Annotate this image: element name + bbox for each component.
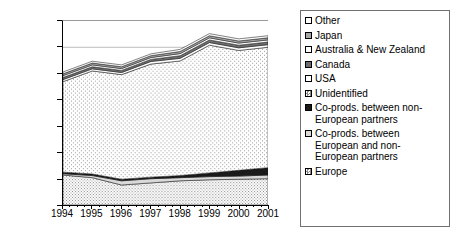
legend-swatch-5 (305, 90, 312, 97)
x-axis-minor-tick (143, 205, 144, 207)
legend: OtherJapanAustralia & New ZealandCanadaU… (300, 10, 450, 227)
x-axis-label: 1996 (110, 208, 132, 219)
x-axis-minor-tick (253, 205, 254, 207)
legend-item[interactable]: Japan (305, 30, 446, 42)
legend-label: Other (315, 15, 340, 27)
x-axis-minor-tick (194, 205, 195, 207)
legend-swatch-2 (305, 46, 312, 53)
x-axis-minor-tick (158, 205, 159, 207)
x-axis-minor-tick (84, 205, 85, 207)
legend-label: Europe (315, 166, 347, 178)
x-axis-minor-tick (165, 205, 166, 207)
x-axis-label: 1995 (80, 208, 102, 219)
x-axis-minor-tick (99, 205, 100, 207)
legend-swatch-4 (305, 75, 312, 82)
legend-label: Japan (315, 30, 342, 42)
legend-label: Australia & New Zealand (315, 44, 425, 56)
legend-label: USA (315, 73, 336, 85)
plot-svg (63, 21, 268, 205)
legend-label: Co-prods. between non- European partners (315, 102, 422, 125)
legend-item[interactable]: Other (305, 15, 446, 27)
legend-swatch-0 (305, 17, 312, 24)
x-axis-minor-tick (246, 205, 247, 207)
x-axis-label: 1997 (139, 208, 161, 219)
legend-swatch-1 (305, 32, 312, 39)
series-areas (63, 34, 268, 205)
legend-label: Canada (315, 59, 350, 71)
x-axis-minor-tick (136, 205, 137, 207)
legend-item[interactable]: Co-prods. between European and non- Euro… (305, 128, 446, 163)
legend-swatch-3 (305, 61, 312, 68)
legend-label: Co-prods. between European and non- Euro… (315, 128, 401, 163)
x-axis-minor-tick (202, 205, 203, 207)
x-axis-minor-tick (128, 205, 129, 207)
x-axis-minor-tick (224, 205, 225, 207)
legend-label: Unidentified (315, 88, 368, 100)
x-axis-minor-tick (77, 205, 78, 207)
plot-area (62, 20, 268, 205)
legend-item[interactable]: Co-prods. between non- European partners (305, 102, 446, 125)
x-axis-minor-tick (217, 205, 218, 207)
legend-item[interactable]: Australia & New Zealand (305, 44, 446, 56)
legend-item[interactable]: USA (305, 73, 446, 85)
chart-screenshot: 050 000100 000150 000200 000250 000300 0… (0, 0, 458, 237)
x-axis-minor-tick (231, 205, 232, 207)
x-axis-minor-tick (69, 205, 70, 207)
legend-item[interactable]: Europe (305, 166, 446, 178)
x-axis-label: 1999 (198, 208, 220, 219)
x-axis-label: 2000 (227, 208, 249, 219)
x-axis-label: 1994 (51, 208, 73, 219)
legend-item[interactable]: Unidentified (305, 88, 446, 100)
x-axis-minor-tick (261, 205, 262, 207)
x-axis-minor-tick (114, 205, 115, 207)
x-axis-label: 2001 (257, 208, 279, 219)
legend-swatch-6 (305, 104, 312, 111)
x-axis-minor-tick (187, 205, 188, 207)
stacked-area-chart: 050 000100 000150 000200 000250 000300 0… (0, 0, 290, 237)
legend-swatch-8 (305, 168, 312, 175)
x-axis-minor-tick (106, 205, 107, 207)
x-axis-minor-tick (172, 205, 173, 207)
legend-item[interactable]: Canada (305, 59, 446, 71)
x-axis-label: 1998 (169, 208, 191, 219)
legend-swatch-7 (305, 130, 312, 137)
